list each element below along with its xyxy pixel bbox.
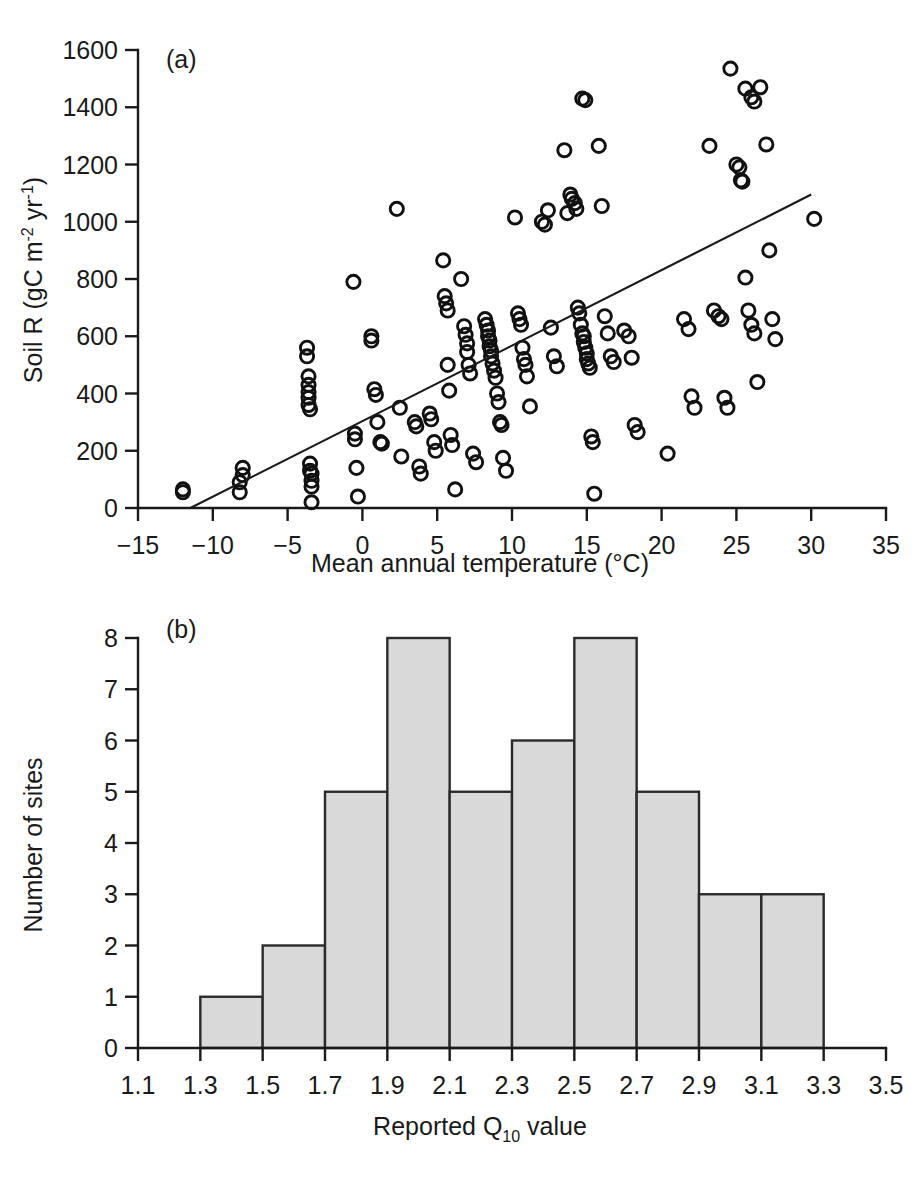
figure-root: 02004006008001000120014001600−15−10−5051… — [0, 0, 922, 1185]
scatter-x-axis-title-main: Mean annual temperature ( — [311, 549, 613, 577]
scatter-y-tick-label: 0 — [104, 494, 118, 522]
scatter-point — [371, 416, 384, 429]
histogram-bar — [325, 792, 387, 1048]
scatter-point — [538, 218, 551, 231]
histogram-x-tick-label: 2.1 — [432, 1071, 467, 1099]
scatter-point — [598, 310, 611, 323]
scatter-point — [496, 451, 509, 464]
histogram-y-tick-label: 4 — [104, 829, 118, 857]
scatter-x-tick-label: −15 — [117, 531, 159, 559]
histogram-y-tick-label: 5 — [104, 778, 118, 806]
histogram-y-tick-label: 7 — [104, 675, 118, 703]
scatter-x-tick-label: 30 — [797, 531, 825, 559]
scatter-point — [499, 464, 512, 477]
scatter-y-axis-title-close: ) — [19, 177, 47, 185]
histogram-x-tick-label: 1.9 — [370, 1071, 405, 1099]
scatter-point — [766, 312, 779, 325]
scatter-point — [455, 272, 468, 285]
histogram-y-tick-label: 6 — [104, 727, 118, 755]
histogram-x-tick-label: 3.1 — [744, 1071, 779, 1099]
scatter-x-tick-label: 35 — [872, 531, 900, 559]
scatter-trendline-group — [190, 195, 811, 508]
scatter-y-tick-label: 200 — [76, 437, 118, 465]
scatter-x-tick-label: −5 — [273, 531, 302, 559]
scatter-point — [760, 138, 773, 151]
scatter-y-tick-label: 800 — [76, 265, 118, 293]
histogram-x-tick-label: 3.5 — [869, 1071, 904, 1099]
histogram-x-tick-label: 1.3 — [183, 1071, 218, 1099]
scatter-point — [754, 81, 767, 94]
scatter-point — [558, 144, 571, 157]
scatter-point — [443, 384, 456, 397]
scatter-points-group — [176, 62, 821, 509]
histogram-bar — [512, 741, 574, 1049]
scatter-x-axis-title: Mean annual temperature (°C) — [311, 549, 649, 577]
scatter-point — [588, 487, 601, 500]
scatter-point — [769, 333, 782, 346]
histogram-bar — [200, 997, 262, 1048]
scatter-point — [592, 139, 605, 152]
histogram-x-axis-title-sub: 10 — [502, 1128, 520, 1145]
scatter-point — [350, 461, 363, 474]
scatter-y-axis-title-main: Soil R (gC m — [19, 241, 47, 383]
histogram-y-tick-label: 3 — [104, 880, 118, 908]
histogram-bar — [263, 946, 325, 1049]
scatter-point — [449, 483, 462, 496]
scatter-point — [492, 395, 505, 408]
histogram-y-tick-label: 1 — [104, 983, 118, 1011]
scatter-point — [595, 199, 608, 212]
scatter-y-tick-label: 600 — [76, 322, 118, 350]
scatter-point — [467, 447, 480, 460]
scatter-point — [733, 161, 746, 174]
histogram-x-tick-label: 1.5 — [245, 1071, 280, 1099]
scatter-y-tick-label: 1600 — [62, 36, 118, 64]
histogram-x-tick-label: 2.3 — [495, 1071, 530, 1099]
scatter-point — [469, 456, 482, 469]
histogram-canvas: 0123456781.11.31.51.71.92.12.32.52.72.93… — [0, 590, 922, 1185]
scatter-x-axis-title-close: ) — [641, 549, 649, 577]
scatter-y-tick-label: 1000 — [62, 208, 118, 236]
scatter-trendline — [190, 195, 811, 508]
histogram-y-tick-label: 0 — [104, 1034, 118, 1062]
scatter-x-tick-label: −10 — [192, 531, 234, 559]
scatter-y-tick-label: 1200 — [62, 151, 118, 179]
scatter-y-axis-title-sup2: -1 — [19, 185, 36, 199]
histogram-x-tick-label: 2.9 — [682, 1071, 717, 1099]
histogram-x-tick-label: 1.7 — [308, 1071, 343, 1099]
scatter-point — [703, 139, 716, 152]
histogram-bar — [574, 638, 636, 1048]
scatter-point — [724, 62, 737, 75]
scatter-plot-canvas: 02004006008001000120014001600−15−10−5051… — [0, 0, 922, 600]
scatter-point — [508, 211, 521, 224]
histogram-x-axis-title-tail: value — [520, 1112, 587, 1140]
panel-b-histogram: 0123456781.11.31.51.71.92.12.32.52.72.93… — [0, 590, 922, 1185]
scatter-y-tick-label: 400 — [76, 380, 118, 408]
scatter-point — [601, 327, 614, 340]
scatter-point — [739, 271, 752, 284]
scatter-point — [351, 490, 364, 503]
scatter-point — [625, 351, 638, 364]
scatter-point — [395, 450, 408, 463]
histogram-x-tick-label: 2.5 — [557, 1071, 592, 1099]
histogram-bar — [699, 894, 761, 1048]
histogram-bar — [387, 638, 449, 1048]
scatter-y-axis-title-sup1: -2 — [19, 227, 36, 241]
scatter-point — [347, 275, 360, 288]
scatter-point — [808, 212, 821, 225]
scatter-y-axis-title: Soil R (gC m-2 yr-1) — [19, 177, 47, 383]
histogram-x-axis-title-main: Reported Q — [373, 1112, 502, 1140]
scatter-point — [300, 350, 313, 363]
scatter-point — [441, 358, 454, 371]
histogram-x-tick-label: 2.7 — [619, 1071, 654, 1099]
histogram-x-axis-title: Reported Q10 value — [373, 1112, 587, 1145]
scatter-point — [715, 312, 728, 325]
scatter-point — [748, 327, 761, 340]
scatter-y-tick-label: 1400 — [62, 93, 118, 121]
scatter-point — [461, 345, 474, 358]
scatter-point — [763, 244, 776, 257]
scatter-point — [745, 318, 758, 331]
histogram-y-tick-label: 2 — [104, 932, 118, 960]
scatter-point — [429, 444, 442, 457]
histogram-x-tick-label: 1.1 — [121, 1071, 156, 1099]
histogram-y-axis-title: Number of sites — [19, 757, 47, 932]
